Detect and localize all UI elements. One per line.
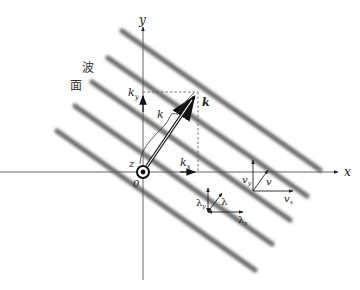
wave-vector-k (147, 97, 194, 166)
wavefront-band (122, 31, 320, 170)
k-vector-label: k (202, 96, 210, 109)
y-axis-label: y (138, 13, 146, 27)
wavefront-label-1: 波 (82, 61, 94, 75)
lambda-label: λ (221, 196, 228, 207)
v-label: v (266, 176, 272, 187)
z-axis-label: z (128, 158, 135, 169)
k-magnitude-brace (140, 93, 194, 164)
vx-label: vx (284, 193, 294, 205)
wavefront-bands (57, 31, 320, 270)
k-magnitude-label: k (157, 108, 164, 121)
wave-diagram: 波 面 x y ky kx k k z 0 vy v vx (0, 0, 360, 290)
z-axis-out-icon (137, 166, 149, 178)
kx-label: kx (180, 156, 191, 171)
origin-label: 0 (133, 178, 140, 189)
x-axis-label: x (344, 165, 351, 179)
lambda-x-label: λx (238, 214, 248, 226)
wavefront-label-2: 面 (70, 79, 82, 93)
ky-label: ky (128, 86, 140, 101)
